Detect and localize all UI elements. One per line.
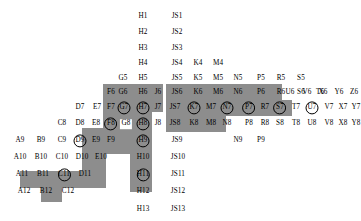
cell-js6[interactable]: JS6 [172,89,183,96]
cell-k4[interactable]: K4 [194,60,203,67]
cell-d7[interactable]: D7 [76,104,85,111]
cell-a9[interactable]: A9 [16,137,25,144]
cell-x6[interactable]: X6 [319,89,328,96]
cell-m4[interactable]: M4 [213,60,223,67]
cell-g6[interactable]: G6 [119,89,128,96]
cell-v6[interactable]: V6 [303,89,312,96]
cell-g5[interactable]: G5 [119,75,128,82]
cell-js12[interactable]: JS12 [171,188,185,195]
cell-s7[interactable]: S7 [276,104,284,111]
cell-r5[interactable]: R5 [277,75,286,82]
cell-b9[interactable]: B9 [37,137,46,144]
cell-a11[interactable]: A11 [16,171,28,178]
cell-u6[interactable]: U6 [286,89,295,96]
cell-m6[interactable]: M6 [213,89,223,96]
cell-g8[interactable]: G8 [120,119,132,129]
cell-js2[interactable]: JS2 [172,29,183,36]
cell-js5[interactable]: JS5 [172,75,183,82]
cell-c8[interactable]: C8 [58,120,67,127]
cell-p9[interactable]: P9 [257,137,265,144]
cell-h1[interactable]: H1 [139,13,148,20]
cell-n7[interactable]: N7 [223,104,232,111]
cell-js13[interactable]: JS13 [171,206,185,213]
cell-x7[interactable]: X7 [339,104,348,111]
cell-k7[interactable]: K7 [190,104,199,111]
cell-h4[interactable]: H4 [139,60,148,67]
cell-t8[interactable]: T8 [292,120,300,127]
cell-n8[interactable]: N8 [223,120,232,127]
cell-js10[interactable]: JS10 [171,154,185,161]
cell-v8[interactable]: V8 [325,120,334,127]
cell-c9[interactable]: C9 [58,137,67,144]
cell-b10[interactable]: B10 [35,154,47,161]
cell-h7[interactable]: H7 [139,104,148,111]
cell-x8[interactable]: X8 [339,120,348,127]
cell-h2[interactable]: H2 [139,29,148,36]
cell-e9[interactable]: E9 [92,137,100,144]
cell-h6[interactable]: H6 [139,89,148,96]
cell-k5[interactable]: K5 [194,75,203,82]
cell-h10[interactable]: H10 [137,154,150,161]
cell-f8[interactable]: F8 [107,120,115,127]
cell-d10[interactable]: D10 [76,154,89,161]
cell-c10[interactable]: C10 [56,154,68,161]
cell-m7[interactable]: M7 [206,104,216,111]
cell-h8[interactable]: H8 [139,120,148,127]
cell-y7[interactable]: Y7 [352,104,361,111]
cell-p5[interactable]: P5 [257,75,265,82]
cell-js7[interactable]: JS7 [170,104,181,111]
cell-e7[interactable]: E7 [93,104,101,111]
cell-f9[interactable]: F9 [107,137,115,144]
cell-m8[interactable]: M8 [206,120,216,127]
cell-js1[interactable]: JS1 [172,13,183,20]
cell-n6[interactable]: N6 [234,89,243,96]
cell-t7[interactable]: T7 [292,104,300,111]
cell-p6[interactable]: P6 [257,89,265,96]
cell-js9[interactable]: JS9 [172,137,183,144]
cell-c11[interactable]: C11 [58,171,70,178]
cell-h5[interactable]: H5 [139,75,148,82]
cell-js3[interactable]: JS3 [172,45,183,52]
cell-c12[interactable]: C12 [62,188,74,195]
cell-f6[interactable]: F6 [107,89,115,96]
cell-s5[interactable]: S5 [297,75,305,82]
cell-j6[interactable]: J6 [155,89,162,96]
cell-r7[interactable]: R7 [261,104,270,111]
cell-js8[interactable]: JS8 [170,120,181,127]
cell-p7[interactable]: P7 [245,104,253,111]
cell-e10[interactable]: E10 [95,154,107,161]
cell-j7[interactable]: J7 [155,104,162,111]
cell-s8[interactable]: S8 [276,120,284,127]
cell-n9[interactable]: N9 [234,137,243,144]
cell-b12[interactable]: B12 [40,188,52,195]
cell-h11[interactable]: H11 [137,171,149,178]
cell-z6[interactable]: Z6 [350,89,358,96]
cell-d9[interactable]: D9 [76,137,85,144]
cell-b11[interactable]: B11 [37,171,49,178]
cell-u8[interactable]: U8 [308,120,317,127]
cell-d8[interactable]: D8 [76,120,85,127]
cell-p8[interactable]: P8 [245,120,253,127]
cell-y6[interactable]: Y6 [335,89,344,96]
cell-v7[interactable]: V7 [325,104,334,111]
cell-m5[interactable]: M5 [213,75,223,82]
cell-h13[interactable]: H13 [137,206,150,213]
cell-n5[interactable]: N5 [234,75,243,82]
cell-e8[interactable]: E8 [92,120,100,127]
cell-u7[interactable]: U7 [308,104,317,111]
cell-g7[interactable]: G7 [120,104,129,111]
cell-h12[interactable]: H12 [137,188,150,195]
cell-a12[interactable]: A12 [18,188,31,195]
cell-k6[interactable]: K6 [194,89,203,96]
cell-h9[interactable]: H9 [139,137,148,144]
cell-js11[interactable]: JS11 [171,171,185,178]
cell-a10[interactable]: A10 [14,154,27,161]
cell-r6[interactable]: R6 [277,89,286,96]
cell-y8[interactable]: Y8 [352,120,361,127]
cell-f7[interactable]: F7 [107,104,115,111]
cell-j8[interactable]: J8 [155,120,162,127]
cell-h3[interactable]: H3 [139,45,148,52]
cell-r8[interactable]: R8 [261,120,270,127]
cell-js4[interactable]: JS4 [172,60,183,67]
cell-d11[interactable]: D11 [79,171,91,178]
